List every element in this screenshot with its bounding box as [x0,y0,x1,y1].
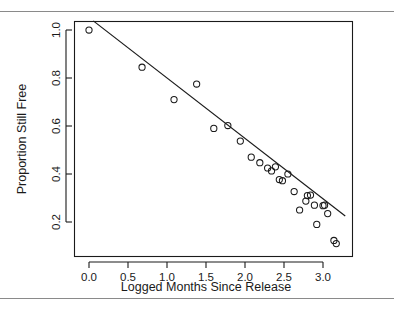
x-axis-ticks [89,262,323,268]
data-point [257,160,263,166]
data-point [291,188,297,194]
data-point [139,64,145,70]
data-point-group [86,27,339,247]
y-tick-label: 0.4 [50,165,62,182]
data-point [297,207,303,213]
data-point [311,202,317,208]
data-point [211,125,217,131]
data-point [86,27,92,33]
scatter-plot: 0.00.51.01.52.02.53.0 0.20.40.60.81.0 Lo… [0,0,394,314]
y-tick-label: 0.8 [50,70,62,86]
y-tick-label: 0.2 [50,214,62,230]
data-point [171,97,177,103]
data-point [237,138,243,144]
y-tick-label: 1.0 [50,22,62,38]
plot-frame [75,22,353,257]
data-point [325,211,331,217]
x-axis-title: Logged Months Since Release [121,280,291,294]
y-axis-title: Proportion Still Free [15,84,29,195]
y-axis-ticks [66,30,72,222]
x-tick-label: 3.0 [315,271,331,283]
y-tick-label: 0.6 [50,118,62,134]
figure-container: 0.00.51.01.52.02.53.0 0.20.40.60.81.0 Lo… [0,0,394,314]
data-point [194,81,200,87]
x-tick-label: 0.0 [81,271,97,283]
data-point [272,164,278,170]
data-point [248,154,254,160]
y-axis-tick-labels: 0.20.40.60.81.0 [50,22,62,230]
regression-fit-line [93,21,345,216]
data-point [314,221,320,227]
